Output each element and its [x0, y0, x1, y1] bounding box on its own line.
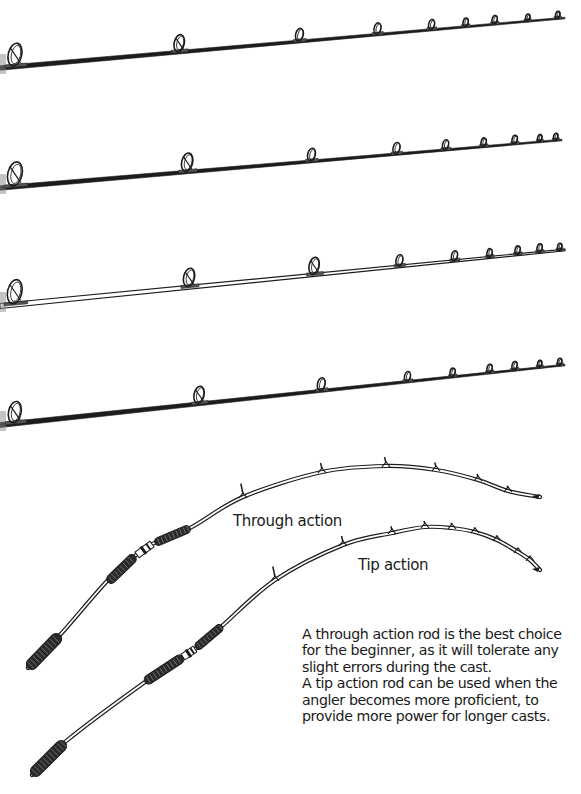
guide-icon [179, 266, 199, 289]
butt-shadow [0, 411, 6, 431]
tip-action-caption: Tip action [358, 556, 428, 574]
guide-icon [177, 151, 197, 174]
guide-icon [485, 363, 494, 374]
guide-icon [510, 134, 519, 145]
guide-icon [305, 147, 319, 163]
guide-icon [485, 248, 494, 259]
guide-icon [535, 243, 544, 254]
guide-icon [536, 134, 544, 143]
reel-seat [134, 540, 154, 558]
guide-icon [426, 18, 437, 30]
upper-grip [193, 623, 224, 651]
rod-1 [0, 11, 565, 74]
butt-grip [24, 631, 64, 672]
through-action-caption: Through action [233, 512, 342, 530]
upper-grip [153, 524, 191, 546]
guide-icon [292, 27, 306, 43]
guide-icon [536, 360, 544, 369]
guide-icon [305, 255, 324, 276]
guide-icon [479, 137, 488, 148]
guide-icon [510, 361, 519, 372]
butt-shadow [0, 174, 6, 194]
guide-icon [402, 370, 413, 382]
butt-grip [28, 738, 69, 779]
rod-3 [0, 242, 565, 312]
fore-grip [105, 553, 138, 585]
guide-icon [556, 242, 564, 251]
guide-icon [314, 376, 328, 392]
straight-rods-group [0, 11, 565, 431]
guide-icon [393, 253, 405, 267]
butt-shadow [0, 54, 6, 74]
description-text: A through action rod is the best choice … [288, 626, 578, 724]
guide-icon [190, 384, 209, 405]
guide-icon [170, 33, 188, 54]
guide-icon [554, 11, 562, 20]
guide-icon [390, 141, 402, 155]
guide-icon [490, 14, 499, 25]
butt-shadow [0, 292, 6, 312]
guide-icon [552, 132, 560, 141]
fore-grip [143, 653, 186, 686]
rod-blank [0, 364, 565, 427]
rod-blank [0, 249, 565, 308]
guide-icon [449, 250, 460, 262]
guide-icon [513, 245, 522, 256]
guide-icon [448, 367, 457, 378]
description-paragraph-2: A tip action rod can be used when the an… [288, 675, 578, 724]
rod-2 [0, 132, 562, 194]
guide-icon [3, 399, 26, 426]
bent-rods-group [24, 457, 540, 779]
guide-icon [440, 139, 451, 151]
guide-icon [371, 22, 383, 36]
guide-icon [3, 41, 28, 69]
guide-icon [556, 357, 564, 366]
guide-icon [524, 13, 532, 22]
rod-blank [0, 139, 562, 190]
rod-4 [0, 357, 565, 431]
guide-icon [461, 17, 470, 28]
description-paragraph-1: A through action rod is the best choice … [288, 626, 578, 675]
rod-blank [0, 17, 565, 70]
